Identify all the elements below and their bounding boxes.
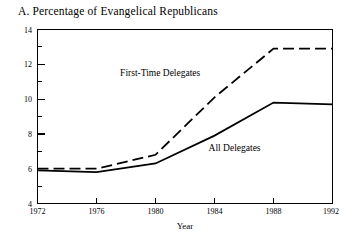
x-tick-label: 1976 (89, 207, 105, 216)
y-axis-tick-labels: 4 6 8 10 12 14 (24, 26, 32, 209)
x-tick-label: 1980 (148, 207, 164, 216)
x-axis-title: Year (177, 221, 194, 231)
x-tick-label: 1984 (207, 207, 223, 216)
y-tick-label: 12 (24, 60, 32, 69)
x-tick-label: 1972 (30, 207, 46, 216)
x-tick-label: 1988 (266, 207, 282, 216)
series-line-first-time-delegates (38, 49, 333, 169)
series-line-all-delegates (38, 103, 333, 173)
x-axis-ticks (38, 198, 333, 204)
y-axis-ticks (38, 30, 45, 204)
x-tick-label: 1992 (323, 207, 339, 216)
y-tick-label: 14 (24, 26, 32, 35)
series-label-all-delegates: All Delegates (209, 143, 261, 153)
chart-figure: A. Percentage of Evangelical Republicans… (0, 0, 353, 242)
y-tick-label: 8 (28, 130, 32, 139)
series-label-first-time-delegates: First-Time Delegates (120, 68, 200, 78)
axis-frame (38, 30, 333, 204)
y-tick-label: 6 (28, 165, 32, 174)
y-tick-label: 10 (24, 95, 32, 104)
x-axis-tick-labels: 1972 1976 1980 1984 1988 1992 (30, 207, 340, 216)
chart-plot-area: 4 6 8 10 12 14 1972 1976 1980 1984 1988 … (0, 0, 353, 242)
